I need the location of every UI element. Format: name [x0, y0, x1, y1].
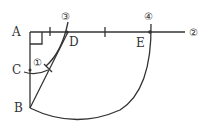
- arc-step3: [46, 22, 68, 66]
- right-angle-mark: [30, 32, 42, 44]
- label-e: E: [136, 36, 145, 50]
- label-c: C: [12, 63, 21, 77]
- point-d: [65, 30, 68, 33]
- point-c: [29, 69, 32, 72]
- label-a: A: [11, 25, 21, 39]
- label-d: D: [69, 35, 79, 49]
- marker-step2: ②: [189, 27, 198, 38]
- arc-step1: [24, 70, 48, 74]
- marker-step1: ①: [33, 57, 42, 68]
- point-e: [148, 30, 152, 34]
- construction-diagram: A B C D E ① ② ③ ④: [0, 0, 214, 131]
- marker-step3: ③: [61, 11, 70, 22]
- label-b: B: [14, 101, 23, 115]
- marker-step4: ④: [144, 11, 153, 22]
